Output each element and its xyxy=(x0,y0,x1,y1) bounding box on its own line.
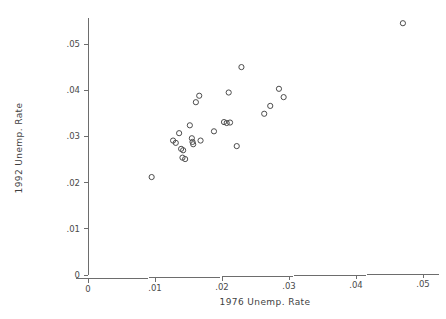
x-tick-label: .03 xyxy=(282,281,296,291)
x-axis-title: 1976 Unemp. Rate xyxy=(220,297,311,307)
x-axis xyxy=(76,274,440,279)
data-point xyxy=(149,174,154,179)
data-point xyxy=(177,131,182,136)
data-point xyxy=(268,103,273,108)
x-tick-label: .05 xyxy=(416,279,430,289)
x-tick-label: 0 xyxy=(85,284,90,294)
data-point xyxy=(198,138,203,143)
x-tick-label: .01 xyxy=(148,283,162,293)
x-axis-ticks: 0.01.02.03.04.05 xyxy=(85,274,429,294)
y-tick-label: .01 xyxy=(66,224,80,234)
data-point xyxy=(197,93,202,98)
data-point xyxy=(400,21,405,26)
data-point xyxy=(226,90,231,95)
data-point xyxy=(276,86,281,91)
data-point xyxy=(211,129,216,134)
y-tick-label: .04 xyxy=(66,85,80,95)
x-tick-label: .02 xyxy=(215,282,229,292)
chart-canvas: 0.01.02.03.04.05 0.01.02.03.04.05 1976 U… xyxy=(0,0,446,319)
data-point xyxy=(193,100,198,105)
y-tick-label: .05 xyxy=(66,39,80,49)
scatter-points xyxy=(149,21,405,180)
scatter-plot-figure: 0.01.02.03.04.05 0.01.02.03.04.05 1976 U… xyxy=(0,0,446,319)
x-axis-line xyxy=(76,274,440,279)
y-tick-label: .02 xyxy=(66,178,80,188)
data-point xyxy=(239,65,244,70)
data-point xyxy=(262,111,267,116)
data-point xyxy=(234,144,239,149)
y-axis-title: 1992 Unemp. Rate xyxy=(14,103,24,194)
data-point xyxy=(187,123,192,128)
y-axis-ticks: 0.01.02.03.04.05 xyxy=(66,39,88,280)
x-tick-label: .04 xyxy=(349,280,363,290)
data-point xyxy=(281,95,286,100)
data-point xyxy=(227,120,232,125)
y-tick-label: 0 xyxy=(75,270,80,280)
y-tick-label: .03 xyxy=(66,131,80,141)
